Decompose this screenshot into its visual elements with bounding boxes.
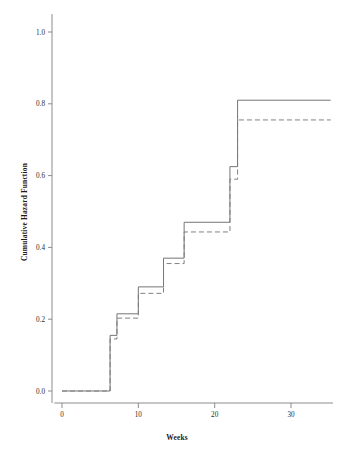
y-tick-label: 1.0 [36, 29, 45, 37]
series-dashed-step [62, 120, 331, 391]
series-solid-step [62, 100, 331, 391]
y-tick-label: 0.6 [36, 172, 45, 180]
y-axis-ticks: 0.00.20.40.60.81.0 [36, 29, 52, 396]
x-tick-label: 20 [211, 411, 219, 419]
y-tick-label: 0.0 [36, 388, 45, 396]
x-axis-title: Weeks [166, 433, 188, 442]
y-tick-label: 0.4 [36, 244, 45, 252]
chart-figure: 0.00.20.40.60.81.0 0102030 Weeks Cumulat… [0, 0, 354, 457]
series-group [62, 100, 331, 391]
x-tick-label: 30 [287, 411, 295, 419]
x-tick-label: 10 [135, 411, 143, 419]
cumulative-hazard-chart: 0.00.20.40.60.81.0 0102030 Weeks Cumulat… [0, 0, 354, 457]
x-tick-label: 0 [60, 411, 64, 419]
axes-group [52, 14, 333, 403]
y-tick-label: 0.2 [36, 316, 45, 324]
y-axis-title: Cumulative Hazard Function [20, 163, 29, 261]
x-axis-ticks: 0102030 [60, 403, 295, 419]
y-tick-label: 0.8 [36, 100, 45, 108]
